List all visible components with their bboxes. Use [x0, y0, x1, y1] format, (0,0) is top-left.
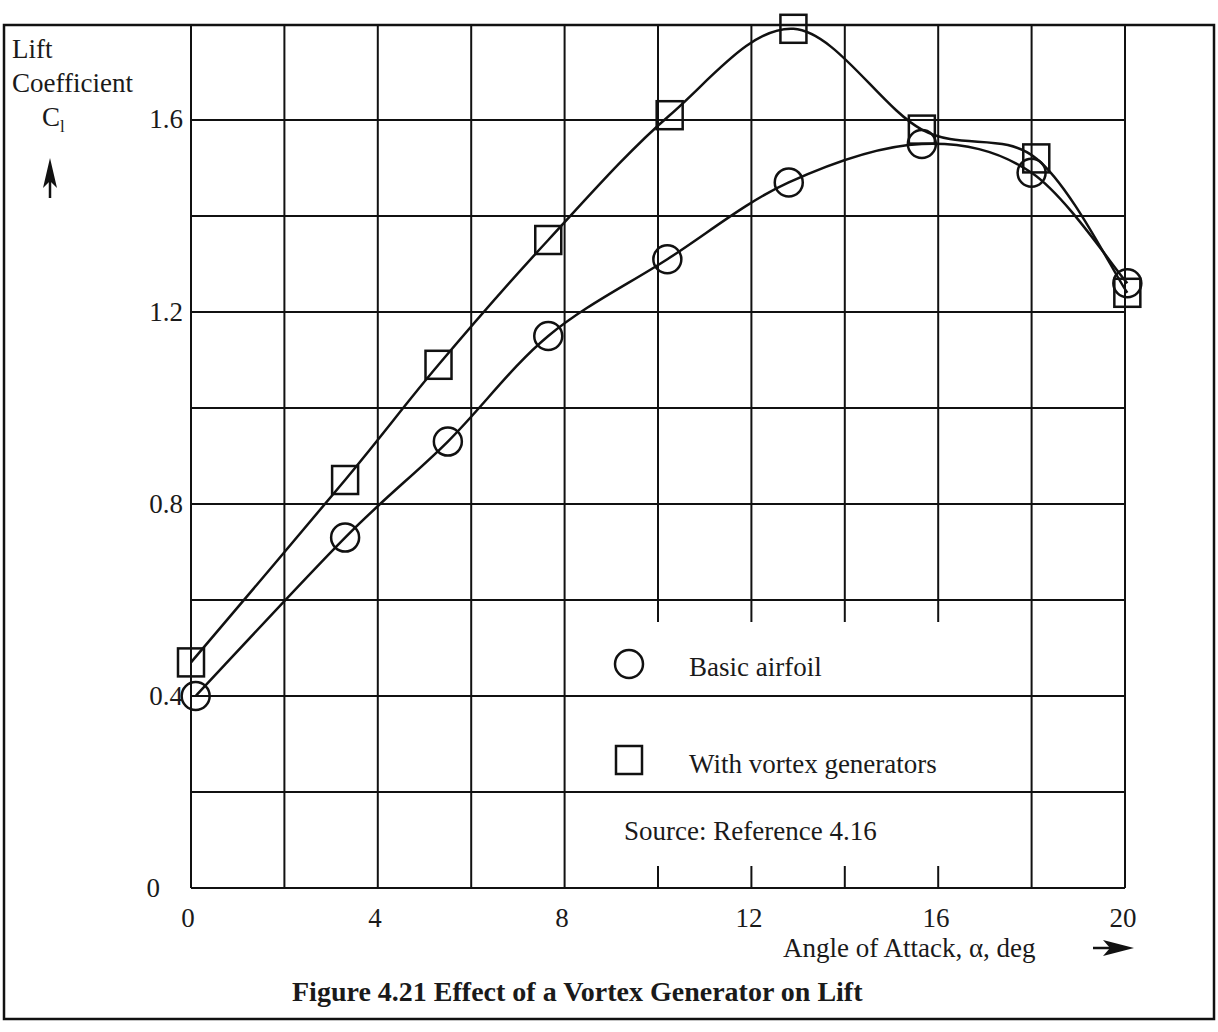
x-tick-label: 0	[158, 905, 218, 932]
y-axis-title-line1: Lift	[12, 36, 53, 63]
legend-square-icon	[616, 746, 642, 774]
legend-label-vortex-generators: With vortex generators	[689, 751, 937, 778]
y-axis-symbol: Cl	[42, 104, 65, 135]
curve-vortex-generators	[191, 29, 1127, 663]
figure-caption: Figure 4.21 Effect of a Vortex Generator…	[292, 978, 863, 1006]
arrow-up-icon	[43, 158, 57, 198]
y-tick-label: 1.2	[123, 299, 183, 326]
plot-grid	[191, 25, 1125, 888]
y-tick-label: 0.4	[123, 683, 183, 710]
x-tick-label: 8	[532, 905, 592, 932]
x-tick-label: 16	[906, 905, 966, 932]
y-axis-title-line2: Coefficient	[12, 70, 133, 97]
legend-circle-icon	[615, 650, 643, 678]
x-tick-label: 12	[719, 905, 779, 932]
x-tick-label: 20	[1093, 905, 1153, 932]
x-axis-title: Angle of Attack, α, deg	[783, 935, 1036, 962]
legend-markers	[615, 650, 643, 774]
legend-label-basic-airfoil: Basic airfoil	[689, 654, 822, 681]
source-note: Source: Reference 4.16	[624, 818, 877, 845]
y-symbol-subscript: l	[60, 117, 65, 136]
y-tick-label: 0.8	[123, 491, 183, 518]
arrow-right-icon	[1093, 940, 1134, 956]
y-tick-label: 0	[100, 875, 160, 902]
curve-basic-airfoil	[196, 144, 1128, 696]
x-tick-label: 4	[345, 905, 405, 932]
y-tick-label: 1.6	[123, 106, 183, 133]
y-symbol-main: C	[42, 102, 60, 132]
